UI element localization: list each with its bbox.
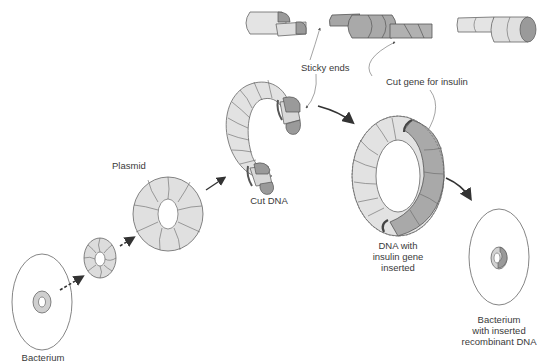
label-recombinant-dna: DNA with insulin gene inserted [358, 240, 438, 273]
label-bacterium-recombinant: Bacterium with inserted recombinant DNA [454, 314, 544, 347]
label-plasmid: Plasmid [112, 160, 146, 171]
label-recombinant-line1: DNA with [358, 240, 438, 251]
label-recombinant-line3: inserted [358, 262, 438, 273]
recombinant-dna [352, 116, 444, 236]
label-final-line3: recombinant DNA [454, 336, 544, 347]
enlarge-arrow [120, 238, 133, 246]
bacterium-cell [12, 254, 72, 350]
label-cut-gene: Cut gene for insulin [386, 76, 468, 87]
label-bacterium: Bacterium [14, 352, 72, 363]
plasmid-segment-cylinder [246, 12, 306, 36]
label-final-line2: with inserted [454, 325, 544, 336]
insulin-gene-segment [329, 14, 432, 38]
label-cut-dna: Cut DNA [244, 195, 294, 206]
plasmid [133, 177, 203, 251]
label-recombinant-line2: insulin gene [358, 251, 438, 262]
dna-cylinder-right [457, 17, 536, 42]
transformation-arrow [446, 178, 470, 198]
bacterium-recombinant [469, 209, 529, 305]
cut-dna [226, 80, 300, 194]
label-sticky-ends: Sticky ends [301, 62, 350, 73]
ligation-arrow [318, 106, 352, 122]
cut-arrow [206, 178, 224, 190]
plasmid-small [84, 238, 116, 278]
diagram-canvas [0, 0, 546, 364]
label-final-line1: Bacterium [454, 314, 544, 325]
